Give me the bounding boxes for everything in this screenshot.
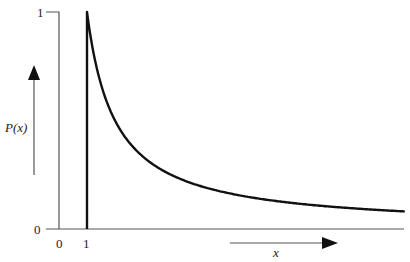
x-axis-label: x: [273, 246, 279, 259]
y-tick-0: 0: [34, 223, 41, 236]
chart-canvas: [0, 0, 410, 262]
y-tick-1: 1: [37, 6, 44, 19]
y-arrow-head-icon: [28, 65, 40, 80]
power-law-chart: 1 0 0 1 P(x) x: [0, 0, 410, 262]
x-tick-0: 0: [56, 237, 63, 250]
x-arrow-head-icon: [322, 237, 338, 249]
y-axis: [46, 12, 59, 229]
power-law-curve: [87, 12, 405, 229]
x-tick-1: 1: [83, 237, 90, 250]
y-axis-label: P(x): [5, 121, 27, 134]
